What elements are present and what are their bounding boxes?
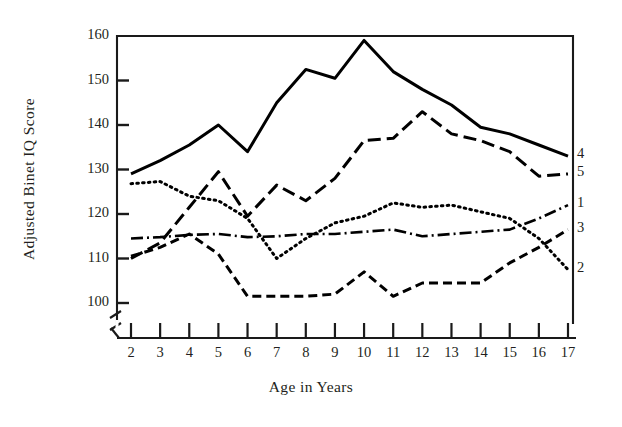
y-axis-tick-label: 110	[63, 249, 109, 266]
series-label-4: 4	[577, 145, 584, 162]
x-axis-tick-label: 2	[116, 344, 146, 361]
chart-figure: Adjusted Binet IQ Score Age in Years 100…	[0, 0, 622, 427]
x-axis-tick-label: 11	[378, 344, 408, 361]
x-axis-tick-label: 4	[174, 344, 204, 361]
plot-frame	[117, 36, 576, 338]
series-lines	[131, 40, 568, 296]
x-axis-tick-label: 14	[466, 344, 496, 361]
x-axis-tick-label: 13	[436, 344, 466, 361]
series-line-2	[131, 182, 568, 270]
y-axis-tick-label: 150	[63, 71, 109, 88]
x-axis-tick-label: 8	[291, 344, 321, 361]
y-axis-ticks	[117, 81, 129, 304]
axis-break-icon	[110, 311, 121, 338]
series-label-5: 5	[577, 163, 584, 180]
x-axis-tick-label: 10	[349, 344, 379, 361]
x-axis-ticks	[131, 323, 568, 338]
x-axis-tick-label: 9	[320, 344, 350, 361]
x-axis-title: Age in Years	[0, 378, 622, 396]
x-axis-tick-label: 16	[524, 344, 554, 361]
y-axis-tick-label: 160	[63, 26, 109, 43]
x-axis-tick-label: 3	[145, 344, 175, 361]
y-axis-title: Adjusted Binet IQ Score	[20, 54, 38, 304]
y-axis-tick-label: 100	[63, 293, 109, 310]
x-axis-tick-label: 6	[233, 344, 263, 361]
x-axis-tick-label: 5	[203, 344, 233, 361]
x-axis-tick-label: 17	[553, 344, 583, 361]
y-axis-tick-label: 140	[63, 115, 109, 132]
series-line-4	[131, 40, 568, 174]
y-axis-tick-label: 120	[63, 204, 109, 221]
x-axis-tick-label: 12	[407, 344, 437, 361]
x-axis-tick-label: 15	[495, 344, 525, 361]
series-label-1: 1	[577, 194, 584, 211]
series-line-1	[131, 205, 568, 238]
series-label-2: 2	[577, 259, 584, 276]
y-axis-tick-label: 130	[63, 160, 109, 177]
series-line-3	[131, 230, 568, 297]
series-label-3: 3	[577, 219, 584, 236]
x-axis-tick-label: 7	[262, 344, 292, 361]
